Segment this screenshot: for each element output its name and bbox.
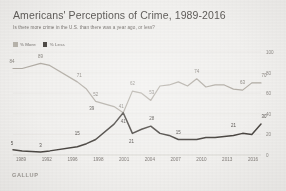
gallup-logo: GALLUP (12, 172, 39, 178)
data-label: 71 (77, 72, 82, 77)
x-axis: 1989199219961998200120042007201020132016 (13, 157, 261, 167)
y-axis-tick: 40 (266, 111, 280, 116)
data-label: 3 (39, 142, 42, 147)
data-label: 63 (240, 80, 245, 85)
data-label: 84 (9, 59, 14, 64)
y-axis: 100806040200 (261, 52, 286, 155)
x-axis-tick: 1998 (93, 157, 103, 162)
series-line-less (13, 113, 261, 152)
data-label: 41 (121, 118, 126, 123)
series-line-more (13, 63, 261, 112)
data-label: 15 (75, 130, 80, 135)
data-label: 21 (231, 123, 236, 128)
x-axis-tick: 1992 (42, 157, 52, 162)
legend-swatch-less (43, 42, 48, 47)
line-chart-svg (13, 52, 261, 155)
x-axis-tick: 1996 (67, 157, 77, 162)
legend-label-less: % Less (50, 42, 65, 47)
chart-subtitle: Is there more crime in the U.S. than the… (13, 25, 155, 30)
data-label: 62 (130, 81, 135, 86)
chart-legend: % More % Less (13, 42, 65, 47)
data-label: 39 (89, 105, 94, 110)
data-label: 5 (11, 140, 14, 145)
data-label: 52 (93, 92, 98, 97)
y-axis-tick: 80 (266, 70, 280, 75)
legend-item-less[interactable]: % Less (43, 42, 65, 47)
y-axis-tick: 20 (266, 132, 280, 137)
data-label: 41 (119, 103, 124, 108)
chart-plot-area: 84897152416253746370531539412128152130 (13, 52, 261, 155)
x-axis-tick: 2004 (145, 157, 155, 162)
x-axis-tick: 2013 (222, 157, 232, 162)
legend-item-more[interactable]: % More (13, 42, 36, 47)
x-axis-tick: 2016 (248, 157, 258, 162)
data-label: 74 (194, 68, 199, 73)
data-label: 89 (38, 54, 43, 59)
data-label: 28 (149, 116, 154, 121)
x-axis-tick: 2010 (196, 157, 206, 162)
y-axis-tick: 100 (266, 50, 280, 55)
data-label: 53 (149, 90, 154, 95)
chart-page: Americans' Perceptions of Crime, 1989-20… (0, 0, 286, 191)
legend-label-more: % More (20, 42, 36, 47)
data-label: 15 (176, 129, 181, 134)
legend-swatch-more (13, 42, 18, 47)
data-label: 21 (129, 139, 134, 144)
y-axis-tick: 0 (266, 153, 280, 158)
x-axis-tick: 2001 (119, 157, 129, 162)
x-axis-tick: 2007 (171, 157, 181, 162)
page-title: Americans' Perceptions of Crime, 1989-20… (13, 9, 226, 21)
y-axis-tick: 60 (266, 91, 280, 96)
x-axis-tick: 1989 (16, 157, 26, 162)
